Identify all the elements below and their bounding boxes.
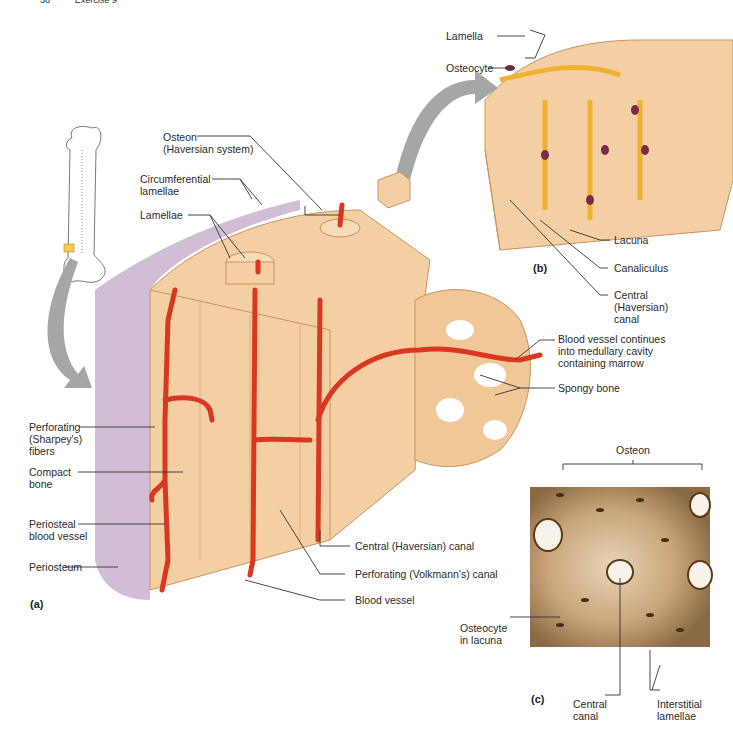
label-perforating-fibers: Perforating (Sharpey's) fibers [29, 421, 82, 457]
label-periosteum: Periosteum [29, 561, 82, 573]
label-osteocyte-in-lacuna: Osteocyte in lacuna [460, 622, 507, 646]
panel-label-b: (b) [533, 262, 547, 274]
label-osteon: Osteon (Haversian system) [163, 131, 253, 155]
label-osteocyte: Osteocyte [446, 62, 493, 74]
panel-label-c: (c) [531, 693, 544, 705]
label-lacuna: Lacuna [614, 234, 648, 246]
label-lamellae: Lamellae [140, 209, 183, 221]
label-osteon-micrograph: Osteon [616, 444, 650, 456]
spongy-bone [415, 290, 530, 467]
micrograph [530, 487, 712, 647]
label-perforating-canal: Perforating (Volkmann's) canal [355, 568, 498, 580]
label-central-canal-micrograph: Central canal [573, 698, 607, 722]
label-lamella: Lamella [446, 30, 483, 42]
label-central-canal: Central (Haversian) canal [355, 540, 474, 552]
label-blood-vessel-continues: Blood vessel continues into medullary ca… [558, 333, 665, 369]
label-central-haversian-canal: Central (Haversian) canal [614, 289, 668, 325]
label-periosteal-blood-vessel: Periosteal blood vessel [29, 518, 87, 542]
wedge-thumbnail [378, 172, 410, 208]
panel-label-a: (a) [30, 598, 43, 610]
label-spongy-bone: Spongy bone [558, 382, 620, 394]
label-canaliculus: Canaliculus [614, 262, 668, 274]
label-interstitial-lamellae: Interstitial lamellae [657, 698, 702, 722]
section-marker-icon [64, 244, 74, 252]
label-circumferential-lamellae: Circumferential lamellae [140, 173, 211, 197]
label-compact-bone: Compact bone [29, 466, 71, 490]
arrow-to-detail-icon [395, 70, 498, 180]
osteon-wedge-detail [485, 40, 733, 250]
label-blood-vessel: Blood vessel [355, 594, 415, 606]
